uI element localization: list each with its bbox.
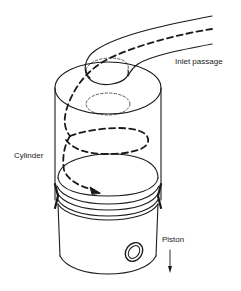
piston <box>55 154 161 274</box>
piston-motion-arrow <box>168 250 172 273</box>
swirl-arrow-icon <box>90 187 100 194</box>
cylinder-label: Cylinder <box>14 152 43 160</box>
inlet-passage <box>85 16 212 84</box>
swirl-diagram <box>0 0 241 291</box>
piston-label: Piston <box>162 236 184 244</box>
inlet-passage-label: Inlet passage <box>175 58 223 66</box>
valve-seat <box>86 93 130 115</box>
cylinder <box>55 62 161 200</box>
